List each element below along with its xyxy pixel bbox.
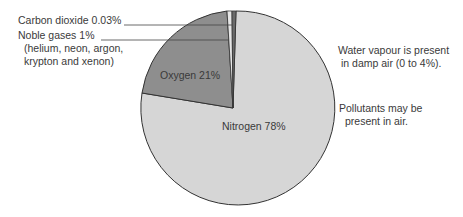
label-noble-gases: Noble gases 1% xyxy=(18,29,94,42)
note-pollutants-line-1: Pollutants may be xyxy=(339,102,422,115)
note-water-vapour-line-1: Water vapour is present xyxy=(338,44,449,57)
slice-oxygen xyxy=(142,11,233,108)
label-noble-gases-detail-2: krypton and xenon) xyxy=(24,55,114,68)
label-carbon-dioxide: Carbon dioxide 0.03% xyxy=(18,14,121,27)
label-oxygen: Oxygen 21% xyxy=(160,69,220,82)
label-noble-gases-detail-1: (helium, neon, argon, xyxy=(24,42,123,55)
note-water-vapour-line-2: in damp air (0 to 4%). xyxy=(341,57,441,70)
label-nitrogen: Nitrogen 78% xyxy=(222,120,286,133)
note-pollutants-line-2: present in air. xyxy=(345,115,408,128)
